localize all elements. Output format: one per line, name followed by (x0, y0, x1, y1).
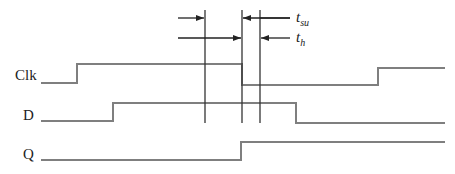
q-label: Q (23, 146, 34, 162)
clk-label: Clk (15, 67, 37, 83)
timing-diagram: Clk D Q tsu th (0, 0, 455, 174)
clk-waveform (41, 64, 445, 85)
d-label: D (23, 107, 34, 123)
d-waveform (41, 103, 445, 123)
setup-time-label: tsu (296, 9, 309, 28)
hold-time-label: th (296, 29, 305, 48)
q-waveform (41, 142, 445, 160)
